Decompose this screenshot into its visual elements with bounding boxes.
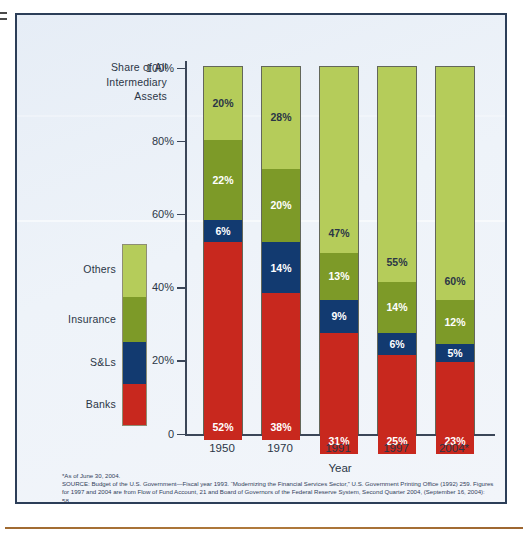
bar-segment-value-label: 20%	[270, 200, 291, 211]
bar-segment-others[interactable]: 28%	[262, 67, 300, 169]
bar-segment-value-label: 22%	[212, 175, 233, 186]
legend-swatch-banks	[123, 384, 146, 425]
bar-segment-s-ls[interactable]: 5%	[436, 344, 474, 362]
x-tick-label-1991: 1991	[308, 442, 368, 454]
stacked-bar-1991[interactable]: 47%13%9%31%	[319, 66, 359, 434]
plot-area: 020%40%60%80%100% 20%22%6%52%28%20%14%38…	[185, 61, 495, 435]
footnote-asterisk: *As of June 30, 2004.	[62, 472, 494, 480]
bar-segment-insurance[interactable]: 14%	[378, 282, 416, 333]
bar-segment-value-label: 60%	[444, 276, 465, 287]
legend-swatch-stack	[122, 244, 147, 426]
bar-segment-value-label: 6%	[389, 339, 404, 350]
bar-segment-others[interactable]: 47%	[320, 67, 358, 253]
y-tick-mark	[177, 360, 185, 362]
bar-segment-banks[interactable]: 25%	[378, 355, 416, 455]
y-tick-mark	[177, 287, 185, 289]
y-tick-label: 80%	[152, 135, 174, 147]
bar-segment-others[interactable]: 60%	[436, 67, 474, 301]
bar-segment-value-label: 9%	[331, 311, 346, 322]
x-tick-label-1997: 1997	[366, 442, 426, 454]
page-edge-marks	[0, 12, 7, 28]
legend-swatch-insurance	[123, 297, 146, 342]
y-tick-mark	[177, 141, 185, 143]
bar-segment-s-ls[interactable]: 6%	[204, 220, 242, 242]
y-tick-label: 20%	[152, 354, 174, 366]
bar-segment-insurance[interactable]: 13%	[320, 253, 358, 301]
legend-swatch-others	[123, 245, 146, 297]
bar-segment-value-label: 28%	[270, 112, 291, 123]
x-tick-label-1970: 1970	[250, 442, 310, 454]
x-tick-label-1950: 1950	[192, 442, 252, 454]
legend-swatch-s-ls	[123, 342, 146, 383]
bar-segment-insurance[interactable]: 22%	[204, 140, 242, 221]
bar-segment-value-label: 13%	[328, 271, 349, 282]
stacked-bar-1997[interactable]: 55%14%6%25%	[377, 66, 417, 434]
legend-label-s-ls: S&Ls	[26, 356, 116, 368]
y-tick-mark	[177, 434, 185, 436]
bar-segment-s-ls[interactable]: 14%	[262, 242, 300, 293]
page-title-line: Intermediary	[37, 75, 167, 90]
bar-segment-s-ls[interactable]: 9%	[320, 300, 358, 333]
bar-segment-value-label: 12%	[444, 317, 465, 328]
bar-segment-value-label: 47%	[328, 228, 349, 239]
stacked-bar-1970[interactable]: 28%20%14%38%	[261, 66, 301, 434]
x-tick-label-2004: 2004*	[424, 442, 484, 454]
page-title-line: Assets	[37, 89, 167, 104]
y-axis-line	[185, 61, 187, 435]
y-tick-label: 100%	[146, 62, 174, 74]
bar-segment-others[interactable]: 20%	[204, 67, 242, 140]
bar-segment-value-label: 20%	[212, 98, 233, 109]
bar-segment-value-label: 5%	[447, 348, 462, 359]
y-tick-mark	[177, 214, 185, 216]
source-note: *As of June 30, 2004. SOURCE: Budget of …	[62, 472, 494, 505]
bar-segment-insurance[interactable]: 20%	[262, 169, 300, 242]
bar-segment-banks[interactable]: 38%	[262, 293, 300, 440]
stacked-bar-1950[interactable]: 20%22%6%52%	[203, 66, 243, 434]
legend-label-others: Others	[26, 263, 116, 275]
y-tick-mark	[177, 68, 185, 70]
bar-segment-banks[interactable]: 52%	[204, 242, 242, 440]
bar-segment-value-label: 52%	[212, 422, 233, 433]
bar-segment-banks[interactable]: 31%	[320, 333, 358, 454]
y-tick-label: 0	[168, 428, 174, 440]
bar-segment-value-label: 38%	[270, 422, 291, 433]
bar-segment-insurance[interactable]: 12%	[436, 300, 474, 344]
bar-segment-value-label: 6%	[215, 226, 230, 237]
chart-legend: OthersInsuranceS&LsBanks	[31, 227, 166, 442]
legend-label-insurance: Insurance	[26, 313, 116, 325]
chart-figure-frame: Share of AllIntermediaryAssets OthersIns…	[15, 13, 507, 504]
legend-label-banks: Banks	[26, 398, 116, 410]
bar-segment-value-label: 14%	[386, 302, 407, 313]
page-bottom-rule	[5, 527, 523, 529]
bar-segment-value-label: 55%	[386, 257, 407, 268]
source-citation: SOURCE: Budget of the U.S. Government—Fi…	[62, 480, 494, 505]
bar-segment-value-label: 14%	[270, 263, 291, 274]
y-tick-label: 40%	[152, 281, 174, 293]
y-tick-label: 60%	[152, 208, 174, 220]
bar-segment-banks[interactable]: 23%	[436, 362, 474, 454]
bar-segment-others[interactable]: 55%	[378, 67, 416, 282]
bar-segment-s-ls[interactable]: 6%	[378, 333, 416, 355]
stacked-bar-2004[interactable]: 60%12%5%23%	[435, 66, 475, 434]
